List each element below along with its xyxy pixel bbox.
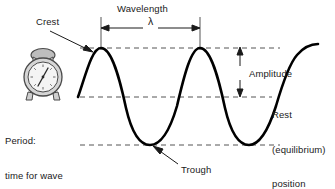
trough-pointer-icon	[153, 146, 178, 164]
alarm-clock-icon	[24, 49, 62, 101]
label-amplitude: Amplitude	[249, 68, 292, 80]
label-lambda-symbol: λ	[148, 16, 153, 28]
label-rest-line-1: Rest	[272, 109, 326, 121]
label-period: Period: time for wave to repeat itself	[5, 112, 63, 189]
label-rest-line-3: position	[272, 178, 326, 189]
label-rest-position: Rest (equilibrium) position	[272, 86, 326, 189]
label-trough: Trough	[181, 164, 211, 176]
label-wavelength: Wavelength	[117, 3, 168, 15]
label-period-line-2: time for wave	[5, 170, 63, 182]
label-rest-line-2: (equilibrium)	[272, 144, 326, 156]
amplitude-arrow-icon	[237, 47, 243, 97]
label-period-line-1: Period:	[5, 135, 63, 147]
label-crest: Crest	[36, 16, 59, 28]
crest-pointer-icon	[50, 31, 93, 52]
